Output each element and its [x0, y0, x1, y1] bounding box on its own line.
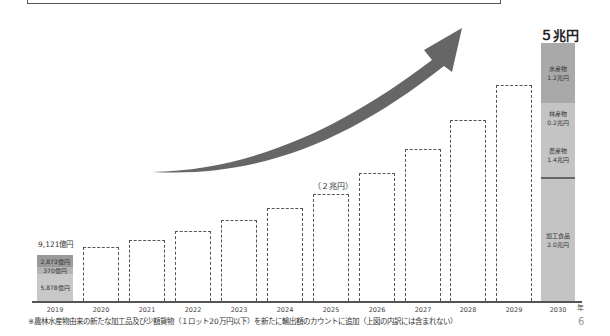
footnote: ※農林水産物由来の新たな加工品及び少額貨物（１ロット20万円以下）を新たに輸出額… — [28, 315, 457, 326]
x-tick-2026: 2026 — [357, 306, 397, 314]
total-2019-label: 9,121億円 — [38, 238, 73, 249]
bar-2024 — [267, 208, 303, 301]
seg-value: 0.2兆円 — [547, 118, 569, 127]
x-axis-line — [32, 301, 582, 303]
bar-2020 — [83, 247, 119, 301]
seg-value: 2.0兆円 — [547, 240, 569, 249]
bar-2030: 水産物 1.2兆円 林産物 0.2兆円 農産物 1.4兆円 加工食品 2.0兆円 — [541, 43, 575, 301]
bar-2030-seg-forest: 林産物 0.2兆円 — [541, 103, 575, 133]
seg-label: 農産物 — [549, 146, 567, 155]
bar-2019: 2,873億円 370億円 5,878億円 — [37, 255, 73, 301]
x-tick-2029: 2029 — [494, 306, 534, 314]
x-tick-2021: 2021 — [127, 306, 167, 314]
bar-2029 — [496, 85, 532, 301]
bar-2022 — [175, 231, 211, 301]
seg-label: 2,873億円 — [40, 257, 69, 266]
seg-label: 5,878億円 — [40, 283, 69, 292]
seg-label: 水産物 — [549, 64, 567, 73]
seg-value: 1.4兆円 — [547, 155, 569, 164]
x-axis-unit: 年 — [577, 302, 584, 312]
bar-2030-seg-fish: 水産物 1.2兆円 — [541, 43, 575, 103]
bar-2026 — [359, 173, 395, 301]
x-tick-2025: 2025 — [311, 306, 351, 314]
label-2025: （２兆円） — [313, 180, 349, 191]
bar-2030-seg-processed: 加工食品 2.0兆円 — [541, 179, 575, 301]
page-number: 6 — [578, 316, 584, 327]
bar-2030-seg-agri: 農産物 1.4兆円 — [541, 133, 575, 177]
bar-2021 — [129, 240, 165, 301]
x-tick-2023: 2023 — [219, 306, 259, 314]
x-tick-2027: 2027 — [403, 306, 443, 314]
goal-2030-label: ５兆円 — [539, 25, 579, 44]
x-tick-2022: 2022 — [173, 306, 213, 314]
x-tick-2019: 2019 — [35, 306, 75, 314]
x-tick-2028: 2028 — [448, 306, 488, 314]
bar-2019-seg-mid: 370億円 — [37, 267, 73, 274]
seg-value: 1.2兆円 — [547, 73, 569, 82]
bar-2028 — [450, 120, 486, 301]
seg-label: 林産物 — [549, 109, 567, 118]
bar-2019-seg-bottom: 5,878億円 — [37, 274, 73, 301]
x-tick-2030: 2030 — [538, 306, 578, 314]
bar-2025 — [313, 194, 349, 301]
bar-2027 — [405, 149, 441, 301]
seg-label: 加工食品 — [546, 231, 570, 240]
x-tick-2024: 2024 — [265, 306, 305, 314]
bar-2023 — [221, 220, 257, 301]
x-tick-2020: 2020 — [81, 306, 121, 314]
